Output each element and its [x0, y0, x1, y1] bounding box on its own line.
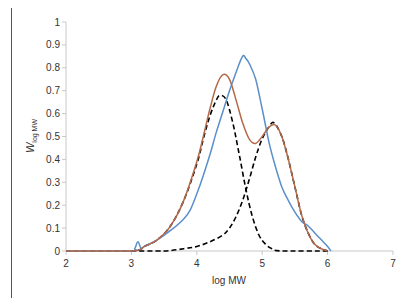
x-axis-title: log MW	[212, 275, 246, 286]
y-tick-label: 0	[54, 246, 60, 257]
x-tick-label: 6	[325, 258, 331, 269]
y-axis-title-sub: log MW	[31, 119, 39, 143]
series-line-component-1	[66, 95, 328, 251]
x-tick-label: 7	[390, 258, 396, 269]
x-ticks: 234567	[63, 251, 396, 269]
y-tick-label: 0.3	[46, 177, 60, 188]
series-line-component-2	[131, 122, 327, 251]
y-tick-label: 0.4	[46, 154, 60, 165]
x-tick-label: 3	[129, 258, 135, 269]
x-tick-label: 5	[259, 258, 265, 269]
x-tick-label: 2	[63, 258, 69, 269]
y-tick-label: 0.1	[46, 223, 60, 234]
y-tick-label: 0.5	[46, 131, 60, 142]
y-ticks: 00.10.20.30.40.50.60.70.80.91	[46, 17, 66, 257]
series-line-fit-total	[66, 74, 328, 251]
y-tick-label: 0.7	[46, 85, 60, 96]
y-tick-label: 0.6	[46, 108, 60, 119]
chart: 00.10.20.30.40.50.60.70.80.91 234567 log…	[0, 0, 416, 301]
y-tick-label: 0.2	[46, 200, 60, 211]
y-axis-title: Wlog MW	[24, 119, 39, 154]
series-group	[66, 56, 331, 251]
y-tick-label: 0.9	[46, 39, 60, 50]
x-tick-label: 4	[194, 258, 200, 269]
axes	[66, 22, 393, 251]
y-tick-label: 0.8	[46, 62, 60, 73]
y-tick-label: 1	[54, 17, 60, 28]
